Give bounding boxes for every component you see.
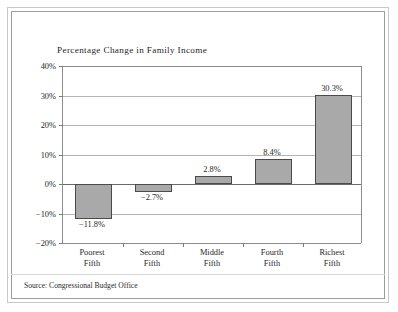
bar bbox=[255, 159, 292, 184]
y-tick-label: 10% bbox=[0, 150, 56, 159]
y-tick-label: 0% bbox=[0, 180, 56, 189]
category-label-line: Richest bbox=[295, 248, 369, 259]
bar bbox=[135, 184, 172, 192]
x-tick-mark bbox=[243, 243, 244, 247]
category-label: RichestFifth bbox=[295, 248, 369, 269]
x-tick-mark bbox=[183, 243, 184, 247]
bar bbox=[75, 184, 112, 219]
chart-title: Percentage Change in Family Income bbox=[57, 45, 207, 55]
y-tick-label: −20% bbox=[0, 239, 56, 248]
y-tick-label: −10% bbox=[0, 209, 56, 218]
x-tick-mark bbox=[303, 243, 304, 247]
gridline bbox=[63, 243, 361, 244]
bar-value-label: 30.3% bbox=[321, 84, 343, 93]
y-tick-mark bbox=[59, 155, 63, 156]
y-tick-mark bbox=[59, 125, 63, 126]
y-tick-mark bbox=[59, 96, 63, 97]
source-note: Source: Congressional Budget Office bbox=[24, 281, 138, 290]
y-tick-mark bbox=[59, 243, 63, 244]
y-tick-label: 20% bbox=[0, 121, 56, 130]
bar bbox=[315, 95, 352, 184]
y-tick-mark bbox=[59, 214, 63, 215]
y-tick-label: 30% bbox=[0, 91, 56, 100]
source-divider bbox=[11, 274, 385, 275]
y-tick-mark bbox=[59, 184, 63, 185]
bar-value-label: −11.8% bbox=[79, 220, 105, 229]
plot-area bbox=[62, 66, 362, 243]
gridline bbox=[63, 66, 361, 67]
bar-value-label: 8.4% bbox=[263, 148, 280, 157]
bar-value-label: −2.7% bbox=[141, 193, 163, 202]
bar bbox=[195, 176, 232, 184]
y-tick-mark bbox=[59, 66, 63, 67]
y-tick-label: 40% bbox=[0, 62, 56, 71]
x-tick-mark bbox=[123, 243, 124, 247]
category-label-line: Fifth bbox=[295, 259, 369, 270]
bar-value-label: 2.8% bbox=[203, 165, 220, 174]
